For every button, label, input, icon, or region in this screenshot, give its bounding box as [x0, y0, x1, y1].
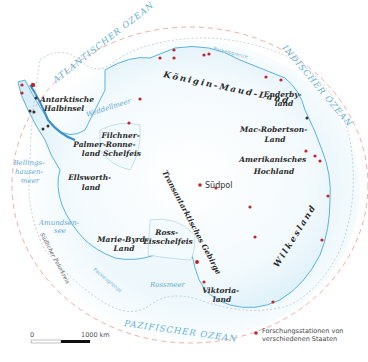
- station-marker: [306, 117, 309, 120]
- station-marker: [202, 53, 205, 56]
- legend-station-icon: [254, 331, 258, 335]
- antarctica-map: ATLANTISCHER OZEAN INDISCHER OZEAN PAZIF…: [0, 0, 368, 362]
- station-marker: [33, 111, 36, 114]
- station-marker: [279, 78, 282, 81]
- south-pole-label: Südpol: [205, 181, 232, 190]
- station-marker: [320, 238, 323, 241]
- station-marker: [202, 280, 205, 283]
- station-marker: [127, 121, 130, 124]
- scale-bar: 0 1000 km: [30, 331, 110, 343]
- station-marker: [172, 48, 175, 51]
- station-marker: [271, 300, 274, 303]
- station-marker: [207, 52, 210, 55]
- station-marker: [214, 186, 217, 189]
- station-marker: [47, 125, 50, 128]
- legend: Forschungsstationen von verschiedenen St…: [254, 327, 343, 343]
- station-marker: [42, 128, 45, 131]
- station-marker: [138, 97, 141, 100]
- station-marker: [304, 149, 307, 152]
- station-marker: [195, 260, 199, 264]
- station-marker: [264, 75, 267, 78]
- station-marker: [20, 83, 23, 86]
- ross-sea-label: Rossmeer: [149, 281, 186, 289]
- station-marker: [29, 110, 32, 113]
- scale-end-label: 1000 km: [81, 331, 110, 339]
- station-marker: [35, 97, 38, 100]
- station-marker: [20, 91, 23, 94]
- south-pole-marker: [198, 183, 202, 187]
- station-marker: [318, 159, 321, 162]
- legend-stations-line2: verschiedenen Staaten: [262, 335, 337, 343]
- station-marker: [31, 83, 35, 87]
- legend-stations-line1: Forschungsstationen von: [262, 327, 344, 335]
- station-marker: [158, 56, 161, 59]
- station-marker: [326, 194, 329, 197]
- station-marker: [248, 205, 251, 208]
- scale-start-label: 0: [30, 331, 34, 339]
- station-marker: [313, 154, 316, 157]
- station-marker: [172, 56, 175, 59]
- station-marker: [253, 235, 256, 238]
